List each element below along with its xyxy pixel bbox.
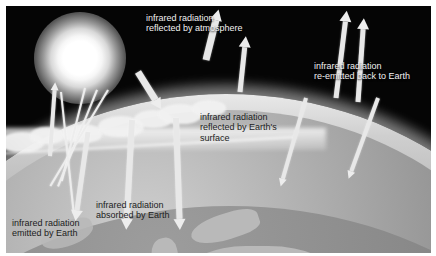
arrow-shaft xyxy=(238,47,248,92)
label-absorbed-by-earth: infrared radiation absorbed by Earth xyxy=(96,200,170,221)
arrow-head xyxy=(357,18,370,30)
arrow-reemit-up-a xyxy=(330,10,353,99)
arrow-head xyxy=(239,36,252,48)
label-reflected-by-earths-surface: infrared radiation reflected by Earth's … xyxy=(200,112,277,143)
space-background: infrared radiation reflected by atmosphe… xyxy=(6,6,431,253)
arrow-shaft xyxy=(334,21,348,98)
label-emitted-by-earth: infrared radiation emitted by Earth xyxy=(12,218,80,239)
arrow-head xyxy=(339,10,352,22)
arrow-shaft xyxy=(173,118,183,219)
arrow-head xyxy=(51,82,60,91)
label-re-emitted-back-to-earth: infrared radiation re-emitted back to Ea… xyxy=(314,61,410,82)
diagram-frame: infrared radiation reflected by atmosphe… xyxy=(0,0,436,256)
arrow-head xyxy=(174,219,186,230)
label-reflected-by-atmosphere: infrared radiation reflected by atmosphe… xyxy=(146,13,243,34)
arrow-shaft xyxy=(48,90,57,156)
